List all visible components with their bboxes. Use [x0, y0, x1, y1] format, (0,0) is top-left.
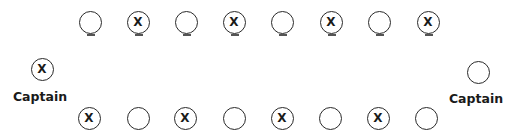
right-captain-label: Captain — [449, 91, 503, 106]
bottom-seat-1: X — [78, 107, 101, 130]
left-captain-seat: X — [31, 58, 54, 81]
bottom-seat-4 — [223, 107, 246, 130]
top-seat-3 — [175, 11, 198, 34]
bottom-seat-8 — [415, 107, 438, 130]
top-seat-1 — [79, 11, 102, 34]
top-seat-2: X — [127, 11, 150, 34]
bottom-seat-5: X — [271, 107, 294, 130]
bottom-seat-3: X — [174, 107, 197, 130]
top-seat-7 — [368, 11, 391, 34]
top-seat-4: X — [223, 11, 246, 34]
bottom-seat-7: X — [367, 107, 390, 130]
left-captain-label: Captain — [13, 89, 67, 104]
top-seat-8: X — [417, 11, 440, 34]
bottom-seat-6 — [319, 107, 342, 130]
bottom-seat-2 — [127, 107, 150, 130]
right-captain-seat — [467, 61, 490, 84]
top-seat-6: X — [320, 11, 343, 34]
top-seat-5 — [271, 11, 294, 34]
